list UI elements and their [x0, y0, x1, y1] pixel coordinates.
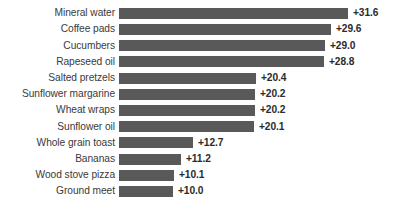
bar-row: Ground meet+10.0: [0, 183, 409, 199]
bar-row: Whole grain toast+12.7: [0, 135, 409, 151]
bar: [119, 170, 174, 181]
bar-value-label: +20.2: [260, 89, 285, 99]
bar-value-label: +28.8: [329, 57, 354, 67]
category-label: Sunflower oil: [57, 122, 115, 132]
bar-row: Sunflower oil+20.1: [0, 119, 409, 135]
bar-group: +12.7: [119, 135, 223, 151]
bar-value-label: +20.4: [261, 73, 286, 83]
bar-row: Rapeseed oil+28.8: [0, 54, 409, 70]
category-label: Ground meet: [56, 186, 115, 196]
bar-group: +10.0: [119, 183, 203, 199]
bar-group: +20.2: [119, 86, 285, 102]
bar-value-label: +29.0: [330, 41, 355, 51]
category-label: Coffee pads: [61, 24, 115, 34]
bar: [119, 154, 181, 165]
bar: [119, 40, 325, 51]
bar: [119, 121, 254, 132]
bar: [119, 89, 255, 100]
bar-group: +31.6: [119, 5, 378, 21]
bar-row: Bananas+11.2: [0, 151, 409, 167]
bar-value-label: +29.6: [336, 24, 361, 34]
bar-row: Sunflower margarine+20.2: [0, 86, 409, 102]
category-label: Whole grain toast: [37, 138, 115, 148]
bar: [119, 24, 331, 35]
bar-row: Mineral water+31.6: [0, 5, 409, 21]
bar-group: +29.6: [119, 21, 361, 37]
category-label: Cucumbers: [63, 41, 115, 51]
bar-value-label: +11.2: [186, 154, 211, 164]
category-label: Bananas: [75, 154, 115, 164]
category-label: Sunflower margarine: [22, 89, 115, 99]
bar-group: +28.8: [119, 54, 354, 70]
category-label: Rapeseed oil: [56, 57, 115, 67]
category-label: Wheat wraps: [56, 105, 115, 115]
bar-row: Wood stove pizza+10.1: [0, 167, 409, 183]
category-label: Wood stove pizza: [36, 170, 115, 180]
category-label: Mineral water: [55, 8, 116, 18]
bar-row: Coffee pads+29.6: [0, 21, 409, 37]
bar-group: +11.2: [119, 151, 211, 167]
bar-value-label: +20.1: [259, 122, 284, 132]
bar-row: Wheat wraps+20.2: [0, 102, 409, 118]
bar: [119, 56, 324, 67]
bar-value-label: +31.6: [353, 8, 378, 18]
bar-row: Cucumbers+29.0: [0, 38, 409, 54]
bar-row: Salted pretzels+20.4: [0, 70, 409, 86]
bar-value-label: +12.7: [198, 138, 223, 148]
category-label: Salted pretzels: [48, 73, 115, 83]
bar-group: +29.0: [119, 38, 355, 54]
bar: [119, 186, 173, 197]
bar-group: +10.1: [119, 167, 204, 183]
bar-group: +20.1: [119, 119, 284, 135]
bar-chart: Mineral water+31.6Coffee pads+29.6Cucumb…: [0, 0, 409, 210]
bar: [119, 105, 255, 116]
bar-value-label: +10.0: [178, 186, 203, 196]
bar-group: +20.4: [119, 70, 286, 86]
bar: [119, 137, 193, 148]
bar-group: +20.2: [119, 102, 285, 118]
bar: [119, 73, 256, 84]
bar-value-label: +10.1: [179, 170, 204, 180]
bar: [119, 8, 348, 19]
bar-value-label: +20.2: [260, 105, 285, 115]
